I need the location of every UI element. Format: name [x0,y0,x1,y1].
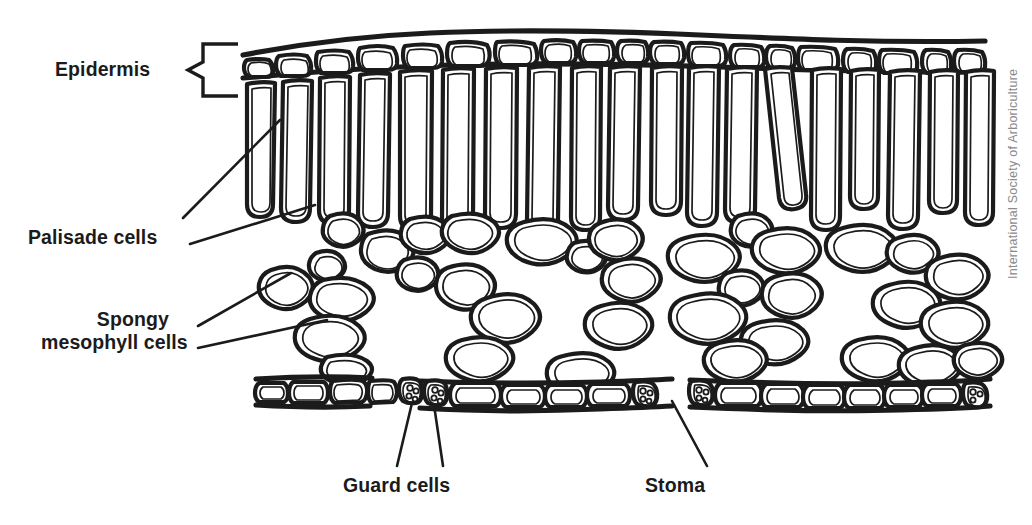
epidermis-cell [316,51,353,74]
spongy-cell [704,340,767,382]
palisade-cell [811,68,841,230]
epidermis-cell [650,42,684,64]
palisade-cell [608,66,640,220]
label-spongy-mesophyll-cells: Spongy mesophyll cells [78,308,188,354]
palisade-cell [687,66,719,226]
palisade-cell [765,67,806,209]
lower-epidermis-cell [803,385,845,408]
spongy-cell [310,278,374,321]
palisade-cell [888,70,920,229]
spongy-cell [752,228,820,273]
credit-text: International Society of Arboriculture [1006,69,1020,279]
spongy-cell [762,273,822,317]
lower-epidermis-cell [884,385,923,407]
epidermis-cell [447,42,490,66]
lower-epidermis-cell [330,380,367,403]
palisade-cell [527,66,560,234]
lower-epidermis-cell [255,383,288,402]
epidermis-cell [579,41,614,63]
lower-epidermis-cell [844,385,885,408]
spongy-cell [954,343,1002,379]
palisade-cell [358,73,390,227]
spongy-cell [397,257,439,290]
epidermis-cell [276,55,311,77]
palisade-cell [400,70,432,230]
lower-epidermis-cell [501,385,545,407]
palisade-cell [319,76,350,224]
leaf-cross-section-diagram: .w-out { fill:#ffffff; stroke:#1b1b1b; s… [0,0,1032,525]
palisade-cell [651,66,682,215]
spongy-cell [589,219,643,260]
label-spongy-line2: mesophyll cells [41,331,188,354]
guard-cell [633,381,657,406]
spongy-cell [446,337,514,381]
label-epidermis: Epidermis [55,58,150,81]
epidermis-cell [766,46,795,68]
epidermis-cell [495,41,537,65]
label-stoma: Stoma [645,474,705,497]
epidermis-cell [244,59,273,77]
lower-epidermis-cell [587,384,630,406]
palisade-layer [247,66,994,234]
spongy-cell [585,303,653,349]
leader-line-icon [397,403,412,466]
lower-epidermis-cell [922,384,961,406]
guard-cell [399,378,422,403]
guard-cell [963,382,987,407]
figure-canvas: .w-out { fill:#ffffff; stroke:#1b1b1b; s… [0,0,1032,525]
label-guard-cells: Guard cells [343,474,450,497]
lower-epidermis-cell [368,380,397,403]
epidermis-cell [688,43,726,66]
guard-cell [424,380,447,405]
guard-cell [689,380,713,405]
lower-epidermis-cell [715,383,762,406]
palisade-cell [485,67,517,228]
spongy-cell [670,293,747,344]
spongy-cell [442,214,499,254]
palisade-cell [571,66,601,230]
spongy-cell [323,213,364,246]
epidermis-cell [730,45,764,67]
label-palisade-cells: Palisade cells [28,226,157,249]
lower-epidermis-cell [545,385,587,407]
palisade-cell [965,70,994,225]
epidermis-cell [403,45,442,69]
epidermis-cell [541,40,576,63]
leader-line-icon [672,401,707,466]
palisade-cell [725,67,757,223]
spongy-mesophyll-layer [259,213,1002,395]
lower-epidermis-cell [450,383,501,406]
lower-epidermis-cell [761,384,804,407]
left-bracket-icon [188,44,238,96]
spongy-cell [602,258,661,301]
lower-epidermis-cell [289,382,328,403]
leader-line-icon [434,405,443,466]
label-spongy-line1: Spongy [97,308,169,330]
palisade-cell [850,69,879,209]
epidermis-cell [358,46,397,70]
epidermis-cell [617,41,648,63]
palisade-cell [442,68,474,232]
palisade-cell [929,70,958,213]
lower-epidermis [255,377,990,411]
palisade-cell [281,80,312,222]
